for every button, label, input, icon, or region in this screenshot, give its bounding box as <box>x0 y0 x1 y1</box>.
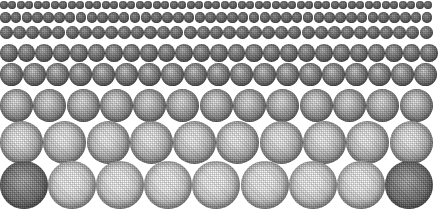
sphere <box>216 12 227 23</box>
sphere <box>378 12 389 23</box>
sphere <box>170 1 178 9</box>
sphere <box>0 44 18 62</box>
sphere-row-4 <box>0 44 433 62</box>
sphere <box>0 26 13 39</box>
sphere <box>144 1 152 9</box>
sphere <box>263 44 281 62</box>
sphere <box>67 89 100 122</box>
sphere <box>416 1 424 9</box>
sphere <box>368 63 391 86</box>
sphere <box>281 12 292 23</box>
sphere <box>238 1 246 9</box>
sphere <box>400 12 411 23</box>
sphere <box>18 44 36 62</box>
sphere <box>175 44 193 62</box>
sphere <box>315 26 328 39</box>
sphere <box>136 1 144 9</box>
sphere <box>266 89 299 122</box>
sphere-row-7 <box>0 121 433 164</box>
sphere <box>76 1 84 9</box>
sphere <box>93 1 101 9</box>
sphere <box>69 63 92 86</box>
sphere <box>368 12 379 23</box>
sphere <box>399 1 407 9</box>
sphere <box>385 161 433 209</box>
sphere <box>178 1 186 9</box>
sphere <box>118 26 131 39</box>
sphere <box>382 1 390 9</box>
sphere <box>324 12 335 23</box>
sphere <box>411 12 422 23</box>
sphere <box>70 44 88 62</box>
sphere <box>100 89 133 122</box>
sphere <box>414 63 437 86</box>
sphere <box>280 44 298 62</box>
sphere-row-5 <box>0 63 433 86</box>
sphere <box>366 89 399 122</box>
sphere <box>130 121 173 164</box>
sphere <box>17 1 25 9</box>
sphere <box>88 44 106 62</box>
sphere <box>221 1 229 9</box>
sphere <box>276 63 299 86</box>
sphere <box>127 1 135 9</box>
sphere <box>367 26 380 39</box>
sphere <box>205 12 216 23</box>
sphere <box>297 1 305 9</box>
sphere <box>87 12 98 23</box>
sphere <box>356 1 364 9</box>
sphere <box>260 12 271 23</box>
sphere <box>424 1 432 9</box>
sphere <box>76 12 87 23</box>
sphere <box>173 121 216 164</box>
sphere <box>322 1 330 9</box>
sphere <box>303 12 314 23</box>
sphere-row-1 <box>0 1 433 9</box>
sphere <box>87 121 130 164</box>
sphere <box>314 12 325 23</box>
sphere <box>292 12 303 23</box>
sphere <box>130 12 141 23</box>
sphere <box>105 44 123 62</box>
sphere <box>275 26 288 39</box>
sphere <box>195 12 206 23</box>
sphere <box>249 12 260 23</box>
sphere <box>314 1 322 9</box>
sphere-row-8 <box>0 161 433 209</box>
sphere <box>65 12 76 23</box>
sphere <box>43 12 54 23</box>
sphere <box>354 26 367 39</box>
sphere <box>102 1 110 9</box>
sphere <box>110 1 118 9</box>
sphere <box>22 12 33 23</box>
sphere <box>288 1 296 9</box>
sphere <box>253 63 276 86</box>
sphere <box>333 89 366 122</box>
sphere <box>0 89 33 122</box>
sphere <box>119 1 127 9</box>
sphere <box>331 1 339 9</box>
sphere <box>52 26 65 39</box>
sphere <box>105 26 118 39</box>
sphere <box>34 1 42 9</box>
sphere <box>35 44 53 62</box>
sphere <box>195 1 203 9</box>
sphere <box>166 89 199 122</box>
sphere <box>272 1 280 9</box>
sphere <box>350 44 368 62</box>
sphere <box>373 1 381 9</box>
sphere <box>303 121 346 164</box>
sphere <box>144 161 192 209</box>
sphere <box>406 26 419 39</box>
sphere <box>403 44 421 62</box>
sphere <box>92 63 115 86</box>
sphere <box>184 63 207 86</box>
sphere <box>151 12 162 23</box>
sphere <box>173 12 184 23</box>
sphere <box>0 12 11 23</box>
sphere <box>140 44 158 62</box>
sphere <box>365 1 373 9</box>
sphere <box>46 63 69 86</box>
sphere <box>54 12 65 23</box>
sphere <box>212 1 220 9</box>
